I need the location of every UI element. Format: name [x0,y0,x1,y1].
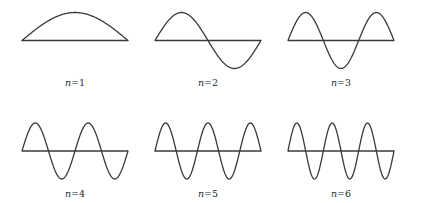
mode-label-value: =6 [337,188,351,199]
mode-label: n=3 [331,77,351,88]
mode-label: n=6 [331,188,351,199]
mode-label: n=5 [198,188,218,199]
mode-panel: n=1 [22,13,128,89]
mode-panel: n=4 [22,123,128,199]
mode-label-value: =2 [204,77,218,88]
mode-panel: n=2 [155,13,261,89]
mode-label-value: =3 [337,77,351,88]
standing-wave-modes-diagram: n=1 n=2 n=3 n=4 n=5 n=6 [0,0,421,203]
wave-curve [22,13,128,41]
mode-label: n=2 [198,77,218,88]
mode-panel: n=5 [155,123,261,199]
mode-label: n=1 [65,77,85,88]
mode-label-value: =4 [71,188,85,199]
mode-label-value: =1 [71,77,85,88]
mode-panel: n=3 [288,13,394,88]
mode-label-value: =5 [204,188,218,199]
mode-label: n=4 [65,188,85,199]
mode-panel: n=6 [288,123,394,199]
